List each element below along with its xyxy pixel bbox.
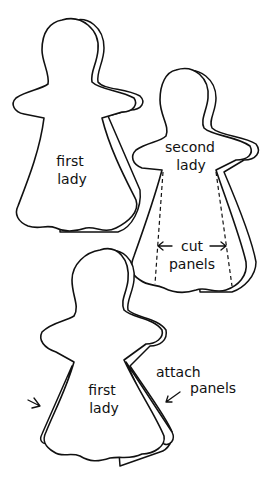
- arrow-pointer-right-icon: [166, 392, 180, 402]
- label-panels: panels: [169, 256, 215, 272]
- label-lady: lady: [57, 171, 87, 187]
- figure-outline: [13, 19, 137, 231]
- label-lady: lady: [176, 157, 206, 173]
- label-first: first: [56, 153, 84, 169]
- label-first: first: [88, 382, 116, 398]
- label-cut: cut: [181, 238, 204, 254]
- label-panels: panels: [190, 380, 236, 396]
- arrow-pointer-left-icon: [28, 398, 40, 408]
- figure-second-lady: second lady cut panels: [132, 69, 259, 293]
- paper-doll-diagram: first lady second lady cut panels first …: [0, 0, 278, 486]
- figure-first-lady-top: first lady: [13, 19, 143, 232]
- label-lady: lady: [89, 400, 119, 416]
- label-attach: attach: [156, 364, 201, 380]
- label-second: second: [165, 139, 215, 155]
